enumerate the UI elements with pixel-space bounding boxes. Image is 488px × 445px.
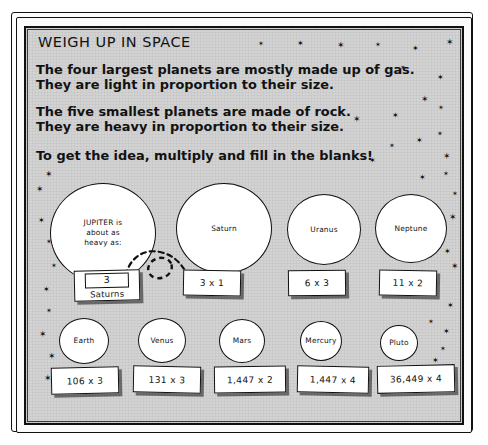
planet-circle-jupiter: JUPITER is about as heavy as:: [50, 183, 156, 283]
star-icon: ✶: [446, 38, 454, 47]
answer-box-mars[interactable]: 1,447 x 2: [214, 366, 286, 394]
star-icon: ✶: [447, 301, 454, 310]
paragraph-line: The five smallest planets are made of ro…: [36, 104, 351, 119]
answer-caption-jupiter: Saturns: [90, 289, 124, 301]
star-icon: ✶: [451, 262, 459, 271]
planet-label-saturn: Saturn: [211, 224, 237, 234]
star-icon: ✶: [45, 170, 53, 179]
star-icon: ✶: [428, 318, 434, 327]
planet-label-neptune: Neptune: [395, 224, 428, 234]
star-icon: ✶: [438, 104, 444, 113]
star-icon: ✶: [443, 170, 449, 179]
paragraph-instruction: To get the idea, multiply and fill in th…: [36, 148, 373, 163]
paragraph-gas-giants: The four largest planets are mostly made…: [36, 62, 415, 92]
answer-box-earth[interactable]: 106 x 3: [51, 366, 120, 395]
planet-label-uranus: Uranus: [310, 225, 337, 235]
answer-text-pluto: 36,449 x 4: [390, 373, 442, 384]
planet-label-venus: Venus: [150, 336, 173, 346]
answer-box-pluto[interactable]: 36,449 x 4: [377, 364, 456, 394]
planet-label-pluto: Pluto: [389, 338, 409, 348]
answer-text-neptune: 11 x 2: [393, 278, 424, 289]
star-icon: ✶: [375, 41, 381, 50]
planet-label-earth: Earth: [74, 336, 95, 346]
page-title: WEIGH UP IN SPACE: [38, 34, 191, 50]
star-icon: ✶: [416, 136, 423, 145]
star-icon: ✶: [419, 173, 426, 182]
star-icon: ✶: [440, 345, 446, 354]
star-icon: ✶: [443, 327, 450, 336]
star-icon: ✶: [39, 330, 47, 339]
planet-circle-earth: Earth: [59, 318, 109, 364]
star-icon: ✶: [452, 190, 458, 199]
answer-box-venus[interactable]: 131 x 3: [133, 365, 202, 393]
star-icon: ✶: [437, 73, 444, 82]
star-icon: ✶: [38, 216, 45, 225]
planet-circle-pluto: Pluto: [380, 325, 418, 361]
star-icon: ✶: [36, 185, 44, 194]
answer-text-saturn: 3 x 1: [200, 278, 225, 288]
worksheet-page: ✶✶✶✶✶✶✶✶✶✶✶✶✶✶✶✶✶✶✶✶✶✶✶✶✶✶✶✶✶✶✶✶✶✶✶✶✶✶✶ …: [0, 0, 488, 445]
planet-circle-venus: Venus: [138, 318, 186, 363]
star-icon: ✶: [46, 307, 52, 316]
answer-text-uranus: 6 x 3: [305, 278, 330, 288]
star-icon: ✶: [444, 247, 451, 256]
planet-label-mars: Mars: [233, 336, 252, 346]
jupiter-label-line1: JUPITER is: [84, 218, 123, 227]
planet-label-mercury: Mercury: [305, 336, 336, 346]
planet-label-jupiter: JUPITER is about as heavy as:: [84, 218, 123, 248]
planet-circle-saturn: Saturn: [176, 183, 272, 274]
star-icon: ✶: [353, 115, 361, 124]
star-icon: ✶: [412, 44, 419, 53]
answer-value-jupiter[interactable]: 3: [85, 273, 129, 289]
star-icon: ✶: [43, 285, 50, 294]
star-icon: ✶: [258, 40, 264, 49]
paragraph-line: They are heavy in proportion to their si…: [36, 119, 351, 134]
paragraph-line: They are light in proportion to their si…: [36, 77, 415, 92]
jupiter-label-line2: about as: [86, 228, 120, 237]
jupiter-label-line3: heavy as:: [84, 238, 122, 247]
star-icon: ✶: [443, 152, 451, 161]
answer-box-mercury[interactable]: 1,447 x 4: [297, 365, 370, 393]
star-icon: ✶: [48, 352, 56, 361]
planet-circle-uranus: Uranus: [287, 194, 361, 265]
answer-box-uranus[interactable]: 6 x 3: [288, 270, 346, 297]
answer-box-jupiter[interactable]: 3 Saturns: [74, 269, 141, 301]
answer-text-earth: 106 x 3: [67, 375, 104, 386]
star-icon: ✶: [337, 41, 345, 50]
paragraph-line: The four largest planets are mostly made…: [36, 62, 415, 77]
paragraph-line: To get the idea, multiply and fill in th…: [36, 148, 373, 163]
planet-circle-mercury: Mercury: [300, 321, 342, 361]
star-icon: ✶: [297, 39, 304, 48]
star-icon: ✶: [421, 95, 429, 104]
star-icon: ✶: [392, 111, 399, 120]
answer-text-mars: 1,447 x 2: [227, 374, 273, 385]
star-icon: ✶: [437, 130, 443, 139]
star-icon: ✶: [449, 213, 457, 222]
planet-circle-neptune: Neptune: [375, 194, 447, 263]
paragraph-rocky-planets: The five smallest planets are made of ro…: [36, 104, 351, 134]
planet-circle-mars: Mars: [219, 319, 265, 363]
answer-text-mercury: 1,447 x 4: [310, 374, 356, 385]
star-icon: ✶: [51, 262, 57, 271]
answer-text-venus: 131 x 3: [149, 374, 186, 385]
answer-box-neptune[interactable]: 11 x 2: [379, 269, 437, 296]
star-icon: ✶: [389, 142, 395, 151]
answer-box-saturn[interactable]: 3 x 1: [183, 269, 241, 296]
